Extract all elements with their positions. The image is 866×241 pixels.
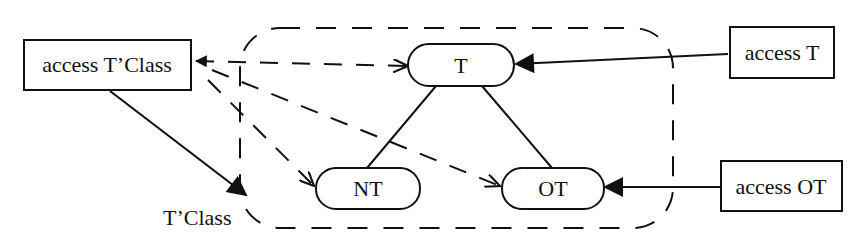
node-t: T — [408, 44, 514, 86]
box-access-t: access T — [730, 27, 834, 78]
label-ot: OT — [538, 176, 568, 201]
node-nt: NT — [316, 168, 420, 209]
arrow-access-tclass-to-region — [110, 91, 246, 195]
label-tclass-region: T’Class — [163, 205, 231, 230]
label-nt: NT — [353, 176, 383, 201]
node-ot: OT — [502, 168, 604, 209]
label-t: T — [454, 53, 468, 78]
box-access-tclass: access T’Class — [24, 40, 191, 90]
diagram-canvas: access T’Class access T access OT T NT O… — [0, 0, 866, 241]
box-access-ot: access OT — [721, 161, 842, 211]
dashed-arrow-to-t — [196, 61, 408, 66]
label-access-t: access T — [745, 40, 820, 65]
edge-t-ot — [482, 86, 552, 168]
label-access-ot: access OT — [735, 174, 827, 199]
label-access-tclass: access T’Class — [42, 52, 172, 77]
arrow-access-t-to-t — [516, 54, 728, 64]
dashed-arrow-to-nt — [208, 80, 314, 186]
